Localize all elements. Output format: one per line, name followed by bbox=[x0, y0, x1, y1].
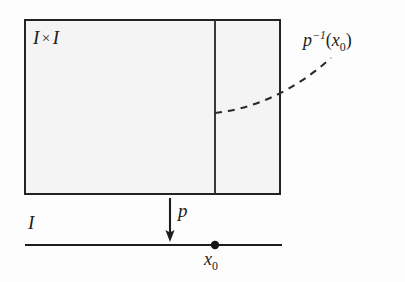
times-operator: × bbox=[40, 30, 53, 46]
fiber-label-argument: x bbox=[332, 30, 340, 50]
projection-arrow bbox=[165, 198, 174, 242]
projection-label: p bbox=[178, 201, 188, 220]
base-interval-label: I bbox=[28, 213, 34, 232]
basepoint-label-symbol: x bbox=[204, 249, 212, 269]
fiber-label-close-paren: ) bbox=[346, 30, 352, 50]
basepoint-dot bbox=[211, 241, 219, 249]
fiber-label-base: p bbox=[303, 30, 312, 50]
basepoint-label: x0 bbox=[204, 250, 218, 272]
product-square-label: I×I bbox=[33, 28, 60, 47]
product-square-label-left: I bbox=[33, 27, 40, 48]
fiber-label: p−1(x0) bbox=[303, 30, 352, 53]
math-diagram: I×I p−1(x0) p I x0 bbox=[0, 0, 405, 282]
product-square-label-right: I bbox=[53, 27, 60, 48]
basepoint-label-subscript: 0 bbox=[212, 259, 218, 273]
fiber-label-exponent: −1 bbox=[312, 29, 326, 42]
